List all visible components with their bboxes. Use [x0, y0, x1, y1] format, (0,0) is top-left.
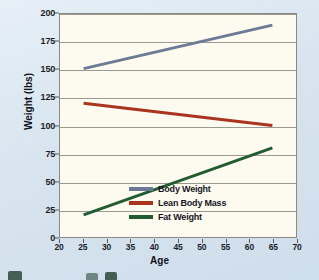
legend-swatch: [129, 201, 153, 205]
y-axis-title: Weight (lbs): [23, 52, 34, 152]
y-tick-mark: [55, 97, 59, 98]
legend-swatch: [129, 215, 153, 219]
legend-item: Lean Body Mass: [129, 196, 239, 210]
legend-swatch: [129, 187, 153, 191]
y-tick-mark: [55, 13, 59, 14]
y-tick-mark: [55, 209, 59, 210]
y-tick-mark: [55, 153, 59, 154]
x-tick-mark: [59, 239, 60, 243]
y-tick-mark: [55, 181, 59, 182]
chart-legend: Body WeightLean Body MassFat Weight: [129, 182, 239, 228]
y-tick-label: 150: [15, 64, 55, 74]
y-tick-label: 50: [15, 177, 55, 187]
x-tick-label: 70: [282, 242, 312, 252]
y-tick-mark: [55, 41, 59, 42]
cropped-glyph: [105, 272, 117, 280]
series-line: [84, 25, 273, 69]
x-tick-mark: [297, 239, 298, 243]
y-tick-label: 100: [15, 121, 55, 131]
y-tick-mark: [55, 69, 59, 70]
chart-figure: 0255075100125150175200 20253035404550556…: [0, 0, 319, 280]
x-tick-mark: [107, 239, 108, 243]
legend-item: Body Weight: [129, 182, 239, 196]
x-tick-mark: [130, 239, 131, 243]
y-tick-mark: [55, 125, 59, 126]
x-tick-mark: [83, 239, 84, 243]
x-tick-mark: [226, 239, 227, 243]
x-tick-mark: [154, 239, 155, 243]
x-tick-mark: [273, 239, 274, 243]
cropped-glyph: [86, 273, 98, 280]
y-tick-label: 175: [15, 36, 55, 46]
x-axis-title: Age: [0, 255, 319, 266]
legend-label: Fat Weight: [158, 212, 202, 222]
series-line: [84, 103, 273, 125]
legend-item: Fat Weight: [129, 210, 239, 224]
x-tick-mark: [249, 239, 250, 243]
y-tick-label: 75: [15, 149, 55, 159]
cropped-bottom-text: [0, 270, 319, 280]
y-tick-label: 200: [15, 8, 55, 18]
y-tick-label: 25: [15, 205, 55, 215]
cropped-glyph: [8, 271, 22, 280]
x-tick-mark: [178, 239, 179, 243]
legend-label: Lean Body Mass: [158, 198, 226, 208]
x-tick-mark: [202, 239, 203, 243]
legend-label: Body Weight: [158, 184, 211, 194]
y-tick-label: 125: [15, 92, 55, 102]
